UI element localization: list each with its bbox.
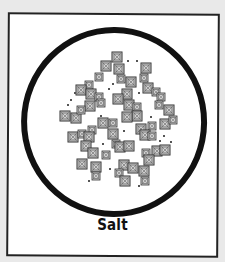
caption-label: Salt bbox=[0, 216, 225, 234]
